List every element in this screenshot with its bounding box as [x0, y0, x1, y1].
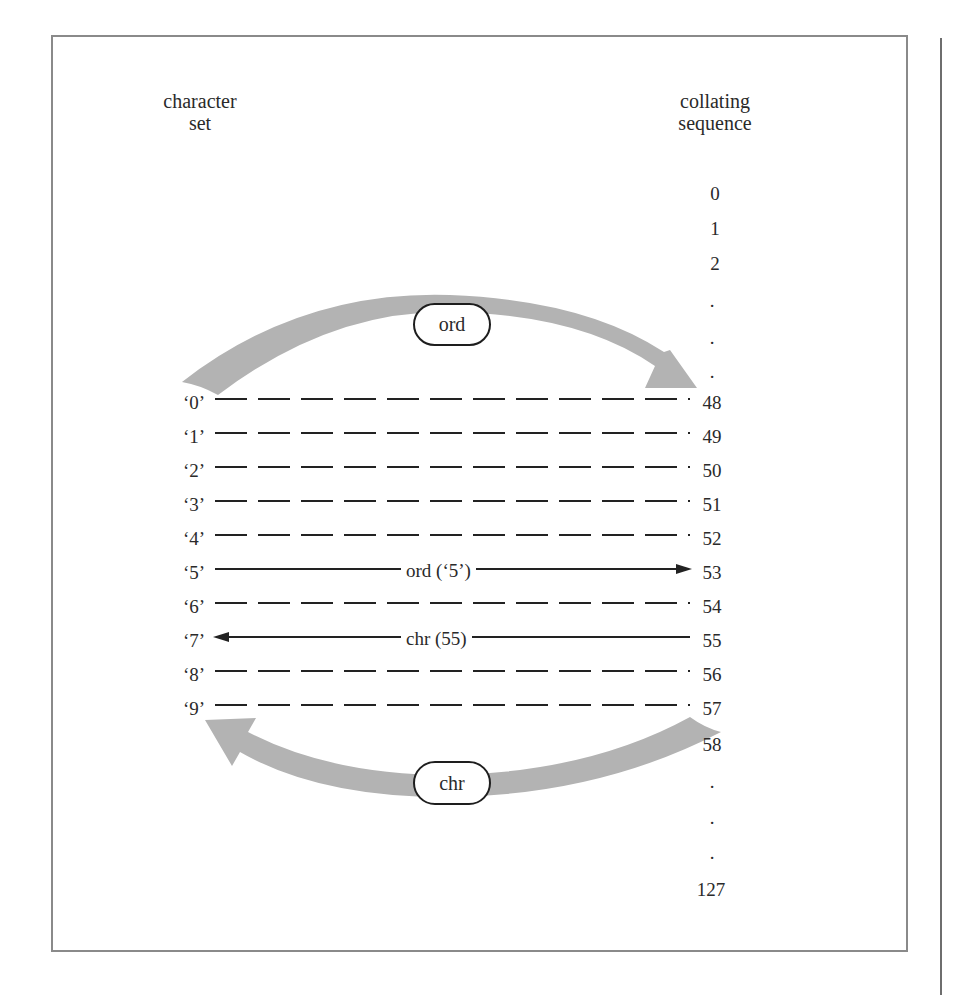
code-value-53: 53 [692, 563, 732, 583]
code-value-54: 54 [692, 597, 732, 617]
char-label-9: ‘9’ [183, 699, 205, 719]
code-value-51: 51 [692, 495, 732, 515]
seq-ellipsis: . [692, 772, 732, 792]
char-label-5: ‘5’ [183, 563, 205, 583]
code-value-50: 50 [692, 461, 732, 481]
seq-value-0: 0 [695, 184, 735, 204]
char-label-0: ‘0’ [183, 393, 205, 413]
char-label-7: ‘7’ [183, 631, 205, 651]
char-label-8: ‘8’ [183, 665, 205, 685]
char-label-4: ‘4’ [183, 529, 205, 549]
char-label-2: ‘2’ [183, 461, 205, 481]
chr-function-pill: chr [413, 761, 491, 805]
chr-example-label: chr (55) [401, 629, 472, 649]
arrowhead-left-icon [213, 632, 229, 642]
code-value-52: 52 [692, 529, 732, 549]
seq-ellipsis: . [692, 843, 732, 863]
code-value-55: 55 [692, 631, 732, 651]
ord-function-label: ord [439, 313, 466, 336]
seq-value-2: 2 [695, 254, 735, 274]
seq-ellipsis: . [692, 328, 732, 348]
seq-value-127: 127 [688, 880, 734, 900]
char-label-3: ‘3’ [183, 495, 205, 515]
code-value-56: 56 [692, 665, 732, 685]
code-value-57: 57 [692, 699, 732, 719]
seq-value-1: 1 [695, 219, 735, 239]
seq-ellipsis: . [692, 291, 732, 311]
code-value-49: 49 [692, 427, 732, 447]
seq-value-58: 58 [692, 735, 732, 755]
code-value-48: 48 [692, 393, 732, 413]
ord-example-label: ord (‘5’) [401, 561, 476, 581]
chr-function-label: chr [439, 772, 465, 795]
char-label-6: ‘6’ [183, 597, 205, 617]
ord-function-pill: ord [413, 303, 491, 346]
mapping-diagram [0, 0, 965, 995]
arrowhead-right-icon [676, 564, 692, 574]
seq-ellipsis: . [692, 362, 732, 382]
char-label-1: ‘1’ [183, 427, 205, 447]
seq-ellipsis: . [692, 808, 732, 828]
